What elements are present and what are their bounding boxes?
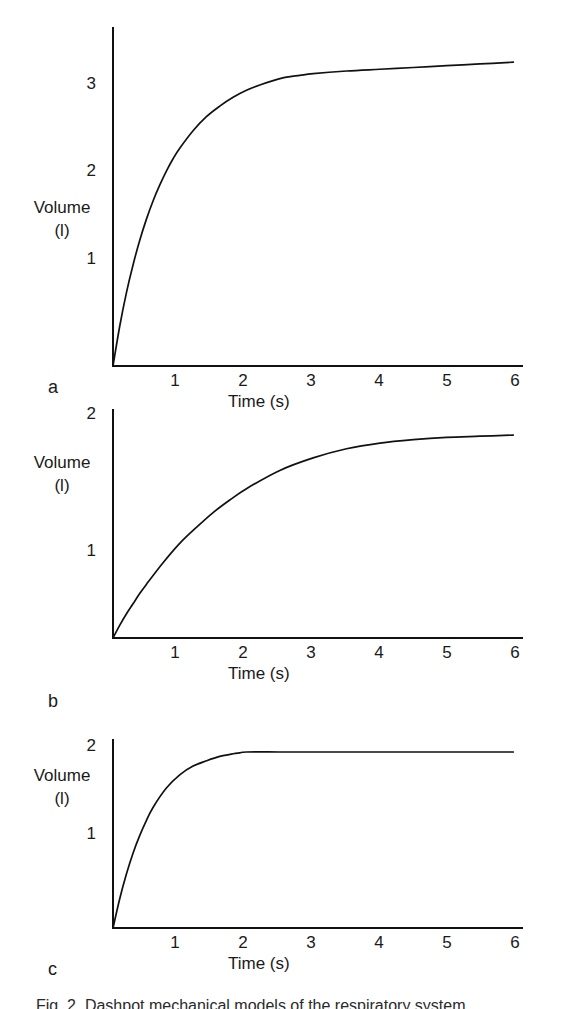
ytick-label-a-1: 1 [70,250,96,267]
xtick-label-c-6: 6 [505,934,525,951]
ytick-label-a-2: 2 [70,162,96,179]
x-axis-title-c: Time (s) [228,954,290,974]
y-axis-title-c-line1: Volume [12,764,112,787]
chart-panel-c: 1 2 Volume (l) 1 2 3 4 5 6 Time (s) c [0,704,566,1004]
xtick-label-c-3: 3 [301,934,321,951]
ytick-label-b-1: 1 [70,542,96,559]
xtick-label-c-2: 2 [233,934,253,951]
y-axis-title-a-line1: Volume [12,196,112,219]
figure-caption: Fig. 2. Dashpot mechanical models of the… [36,996,556,1009]
figure-volume-time-curves: 1 2 3 Volume (l) 1 2 3 4 5 6 Time (s) a … [0,0,566,1009]
curve-b [113,435,513,638]
xtick-label-c-4: 4 [369,934,389,951]
y-axis-title-a: Volume (l) [12,196,112,242]
xtick-label-b-3: 3 [301,644,321,661]
axis-lines-c [113,740,522,928]
xtick-label-b-5: 5 [437,644,457,661]
y-axis-title-b-line1: Volume [12,451,112,474]
xtick-label-b-6: 6 [505,644,525,661]
panel-letter-c: c [48,960,57,978]
xtick-label-b-2: 2 [233,644,253,661]
ytick-label-a-3: 3 [70,75,96,92]
xtick-label-b-4: 4 [369,644,389,661]
y-axis-title-c-line2: (l) [12,787,112,810]
ytick-label-b-2: 2 [70,405,96,422]
ytick-label-c-1: 1 [70,825,96,842]
y-axis-title-a-line2: (l) [12,219,112,242]
y-axis-title-c: Volume (l) [12,764,112,810]
x-axis-title-b: Time (s) [228,664,290,684]
curve-c [113,752,513,928]
chart-panel-b: 1 2 Volume (l) 1 2 3 4 5 6 Time (s) b [0,374,566,704]
xtick-label-c-5: 5 [437,934,457,951]
xtick-label-b-1: 1 [165,644,185,661]
plot-area-b [0,374,566,704]
xtick-label-c-1: 1 [165,934,185,951]
curve-a [113,62,513,366]
ytick-label-c-2: 2 [70,737,96,754]
axis-lines-b [113,410,522,638]
axis-lines-a [113,28,522,366]
chart-panel-a: 1 2 3 Volume (l) 1 2 3 4 5 6 Time (s) a [0,0,566,400]
y-axis-title-b-line2: (l) [12,474,112,497]
y-axis-title-b: Volume (l) [12,451,112,497]
